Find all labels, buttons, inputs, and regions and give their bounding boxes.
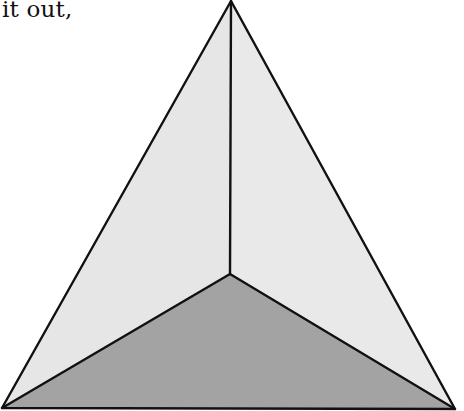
center-edge-apex: [230, 1, 231, 274]
tetrahedron-diagram: [0, 0, 464, 411]
